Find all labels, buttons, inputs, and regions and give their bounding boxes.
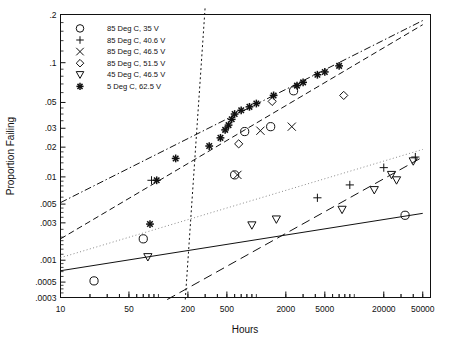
y-tick-label: .03 [45, 123, 57, 133]
data-point-asterisk [252, 100, 260, 108]
y-tick-label: .005 [40, 199, 57, 209]
x-tick-label: 10 [56, 304, 66, 314]
legend-label: 85 Deg C, 46.5 V [107, 47, 166, 56]
y-tick-label: .0005 [35, 277, 57, 287]
data-point-asterisk [205, 142, 213, 150]
x-tick-label: 20000 [372, 304, 396, 314]
data-point-asterisk [237, 106, 245, 114]
data-point-asterisk [335, 62, 343, 70]
x-tick-label: 50 [124, 304, 134, 314]
legend-label: 85 Deg C, 51.5 V [107, 59, 166, 68]
x-tick-label: 500 [220, 304, 234, 314]
y-tick-label: .0003 [35, 293, 57, 303]
y-axis-title: Proportion Failing [5, 117, 16, 195]
legend-label: 85 Deg C, 40.6 V [107, 36, 166, 45]
data-point-asterisk [246, 103, 254, 111]
y-tick-label: .001 [40, 255, 57, 265]
data-point-asterisk [172, 155, 180, 163]
data-point-asterisk [153, 176, 161, 184]
data-point-asterisk [321, 68, 329, 76]
y-tick-label: .05 [45, 97, 57, 107]
y-tick-label: .02 [45, 142, 57, 152]
data-point-asterisk [146, 220, 154, 228]
x-tick-label: 2000 [276, 304, 295, 314]
data-point-asterisk [217, 134, 225, 142]
x-tick-label: 50000 [411, 304, 435, 314]
x-axis-title: Hours [232, 324, 259, 335]
legend-label: 5 Deg C, 62.5 V [107, 82, 162, 91]
probability-plot: .2.1.05.03.02.01.005.003.001.0005.0003 1… [0, 0, 451, 343]
y-tick-label: .003 [40, 218, 57, 228]
data-point-asterisk [270, 92, 278, 100]
legend-label: 85 Deg C, 35 V [107, 24, 160, 33]
data-point-asterisk [314, 71, 322, 79]
x-tick-label: 200 [181, 304, 195, 314]
data-point-asterisk [299, 78, 307, 86]
y-tick-label: .2 [49, 10, 56, 20]
plot-canvas: .2.1.05.03.02.01.005.003.001.0005.0003 1… [0, 0, 451, 343]
y-tick-label: .1 [49, 58, 56, 68]
y-tick-label: .01 [45, 172, 57, 182]
x-tick-label: 5000 [315, 304, 334, 314]
legend-marker-asterisk [76, 83, 83, 90]
legend-label: 45 Deg C, 46.5 V [107, 70, 166, 79]
data-point-asterisk [231, 110, 239, 118]
